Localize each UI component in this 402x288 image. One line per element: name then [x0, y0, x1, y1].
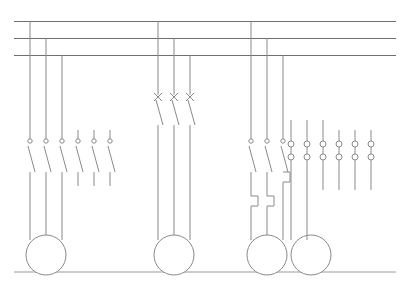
contact-dot-f1-b — [44, 139, 48, 143]
contact-dot-f1-a — [28, 139, 32, 143]
terminal-top-3[interactable] — [320, 141, 326, 147]
overload-heater-f3-b — [267, 196, 274, 216]
contact-dot-f1-aux-c — [108, 139, 112, 143]
contact-blade-f3-b — [265, 146, 272, 172]
disconnect-blade-f2-b — [172, 100, 179, 125]
disconnect-blade-f2-c — [188, 100, 195, 125]
terminal-bottom-3[interactable] — [320, 154, 326, 160]
disconnect-blade-f2-a — [156, 100, 163, 125]
terminal-top-4[interactable] — [336, 141, 342, 147]
terminal-top-5[interactable] — [352, 141, 358, 147]
motor-f4 — [291, 235, 331, 275]
contact-blade-f1-b — [44, 146, 51, 172]
contact-blade-f1-aux-b — [92, 146, 99, 172]
terminal-bottom-2[interactable] — [304, 154, 310, 160]
contact-dot-f3-a — [249, 139, 253, 143]
contact-dot-f3-c — [281, 139, 285, 143]
contact-dot-f1-aux-a — [76, 139, 80, 143]
terminal-top-2[interactable] — [304, 141, 310, 147]
busbar-group — [14, 21, 396, 55]
contact-dot-f1-aux-b — [92, 139, 96, 143]
terminal-top-6[interactable] — [368, 141, 374, 147]
motor-f2 — [154, 235, 194, 275]
schematic-drawing — [0, 0, 402, 288]
contact-dot-f1-c — [60, 139, 64, 143]
contact-blade-f3-a — [249, 146, 256, 172]
overload-heater-f3-a — [251, 196, 258, 216]
terminal-bottom-4[interactable] — [336, 154, 342, 160]
motor-f1 — [26, 235, 66, 275]
contact-blade-f3-c — [281, 146, 288, 172]
contact-blade-f1-a — [28, 146, 35, 172]
contact-blade-f1-c — [60, 146, 67, 172]
overload-heater-f3-c — [283, 172, 290, 196]
terminal-bottom-5[interactable] — [352, 154, 358, 160]
terminal-top-1[interactable] — [288, 141, 294, 147]
terminal-bottom-1[interactable] — [288, 154, 294, 160]
wire-group — [26, 21, 374, 275]
terminal-bottom-6[interactable] — [368, 154, 374, 160]
contact-dot-f3-b — [265, 139, 269, 143]
motor-f3 — [247, 235, 287, 275]
schematic-sheet — [0, 0, 402, 288]
contact-blade-f1-aux-c — [108, 146, 115, 172]
contact-blade-f1-aux-a — [76, 146, 83, 172]
